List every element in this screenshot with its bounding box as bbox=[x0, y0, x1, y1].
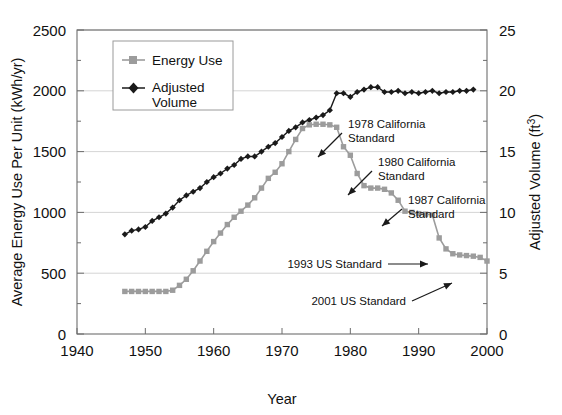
energy-use-marker bbox=[307, 122, 312, 127]
right-tick-label: 5 bbox=[499, 265, 507, 282]
energy-use-marker bbox=[245, 202, 250, 207]
energy-use-marker bbox=[156, 289, 161, 294]
energy-use-marker bbox=[252, 195, 257, 200]
svg-text:Adjusted Volume (ft3): Adjusted Volume (ft3) bbox=[525, 114, 543, 250]
left-tick-label: 500 bbox=[41, 265, 66, 282]
energy-use-marker bbox=[184, 277, 189, 282]
energy-use-marker bbox=[211, 239, 216, 244]
left-tick-label: 2000 bbox=[33, 82, 66, 99]
energy-use-marker bbox=[320, 122, 325, 127]
left-tick-label: 2500 bbox=[33, 22, 66, 39]
energy-use-marker bbox=[129, 289, 134, 294]
energy-use-marker bbox=[286, 149, 291, 154]
energy-use-marker bbox=[375, 185, 380, 190]
energy-use-marker bbox=[484, 258, 489, 263]
legend-label-adjusted-volume-line2: Volume bbox=[152, 95, 197, 110]
energy-use-marker bbox=[382, 187, 387, 192]
right-tick-label: 10 bbox=[499, 204, 516, 221]
annotation-label: 1980 California bbox=[378, 156, 456, 168]
energy-use-marker bbox=[368, 185, 373, 190]
x-tick-label: 1970 bbox=[265, 342, 298, 359]
energy-use-marker bbox=[272, 170, 277, 175]
right-tick-label: 25 bbox=[499, 22, 516, 39]
legend-label-energy-use: Energy Use bbox=[152, 53, 223, 68]
energy-use-marker bbox=[293, 137, 298, 142]
annotation-label-line2: Standard bbox=[408, 208, 455, 220]
square-icon bbox=[129, 56, 137, 64]
energy-use-marker bbox=[300, 126, 305, 131]
energy-use-marker bbox=[177, 283, 182, 288]
right-tick-label: 15 bbox=[499, 143, 516, 160]
left-tick-label: 0 bbox=[58, 326, 66, 343]
energy-use-marker bbox=[225, 222, 230, 227]
energy-use-marker bbox=[266, 176, 271, 181]
legend-label-adjusted-volume: Adjusted bbox=[152, 80, 205, 95]
x-tick-label: 1960 bbox=[197, 342, 230, 359]
legend: Energy Use Adjusted Volume bbox=[113, 41, 233, 110]
energy-use-marker bbox=[477, 255, 482, 260]
x-tick-label: 1940 bbox=[60, 342, 93, 359]
energy-use-marker bbox=[218, 230, 223, 235]
chart-container: 25002000150010005000 2520151050 19401950… bbox=[0, 0, 562, 415]
energy-use-marker bbox=[149, 289, 154, 294]
annotation-label-line2: Standard bbox=[378, 170, 425, 182]
energy-use-marker bbox=[457, 252, 462, 257]
energy-use-marker bbox=[471, 253, 476, 258]
annotation-label-line2: Standard bbox=[348, 132, 395, 144]
energy-use-marker bbox=[464, 253, 469, 258]
energy-use-marker bbox=[170, 288, 175, 293]
left-axis-title: Average Energy Use Per Unit (kWh/yr) bbox=[9, 58, 25, 307]
energy-use-marker bbox=[238, 208, 243, 213]
energy-use-marker bbox=[197, 258, 202, 263]
energy-use-marker bbox=[334, 125, 339, 130]
right-axis-title-close: ) bbox=[527, 114, 543, 119]
energy-use-marker bbox=[204, 249, 209, 254]
x-tick-label: 2000 bbox=[470, 342, 503, 359]
energy-use-marker bbox=[450, 251, 455, 256]
energy-use-marker bbox=[122, 289, 127, 294]
energy-use-marker bbox=[389, 190, 394, 195]
energy-use-marker bbox=[354, 171, 359, 176]
energy-use-marker bbox=[361, 183, 366, 188]
annotation-label: 1993 US Standard bbox=[287, 258, 382, 270]
energy-use-marker bbox=[395, 198, 400, 203]
left-tick-label: 1500 bbox=[33, 143, 66, 160]
energy-use-marker bbox=[313, 122, 318, 127]
energy-use-marker bbox=[341, 144, 346, 149]
energy-use-marker bbox=[402, 208, 407, 213]
x-tick-label: 1980 bbox=[334, 342, 367, 359]
energy-use-marker bbox=[443, 246, 448, 251]
x-axis-title: Year bbox=[267, 391, 296, 407]
energy-use-marker bbox=[190, 268, 195, 273]
x-tick-label: 1990 bbox=[402, 342, 435, 359]
energy-use-marker bbox=[163, 289, 168, 294]
annotation-label: 1987 California bbox=[408, 194, 486, 206]
energy-use-marker bbox=[348, 153, 353, 158]
annotation-label: 1978 California bbox=[348, 118, 426, 130]
energy-use-marker bbox=[259, 185, 264, 190]
energy-use-marker bbox=[327, 122, 332, 127]
annotation-label: 2001 US Standard bbox=[311, 295, 406, 307]
right-axis-title: Adjusted Volume (ft3) bbox=[525, 114, 543, 250]
energy-use-marker bbox=[436, 235, 441, 240]
right-tick-label: 20 bbox=[499, 82, 516, 99]
chart-svg: 25002000150010005000 2520151050 19401950… bbox=[0, 0, 562, 415]
energy-use-marker bbox=[231, 215, 236, 220]
energy-use-marker bbox=[279, 161, 284, 166]
energy-use-marker bbox=[143, 289, 148, 294]
right-tick-label: 0 bbox=[499, 326, 507, 343]
left-tick-label: 1000 bbox=[33, 204, 66, 221]
x-tick-label: 1950 bbox=[129, 342, 162, 359]
energy-use-marker bbox=[136, 289, 141, 294]
right-axis-title-main: Adjusted Volume (ft bbox=[527, 124, 543, 250]
